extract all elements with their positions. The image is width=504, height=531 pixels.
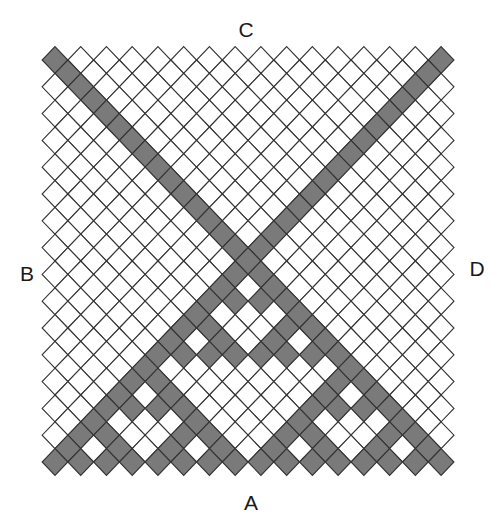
label-left-b: B [20,263,34,284]
lattice-cells [42,47,454,476]
label-bottom-a: A [244,492,258,513]
label-right-d: D [469,258,484,279]
label-top-c: C [238,19,253,40]
diamond-lattice-diagram [0,0,504,531]
